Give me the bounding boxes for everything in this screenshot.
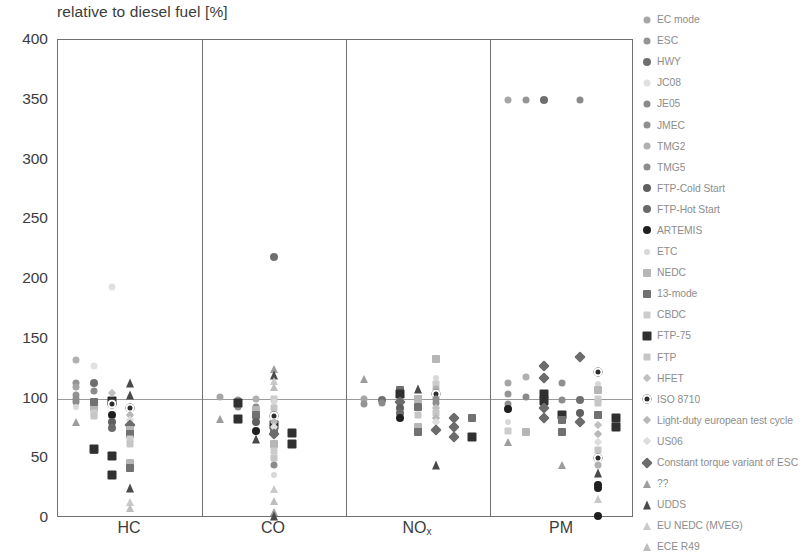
x-tick-label-co: CO — [203, 519, 343, 537]
legend-item-ftp-75[interactable]: FTP-75 — [640, 325, 807, 346]
legend-label: ESC — [657, 35, 678, 46]
legend-item-13-mode[interactable]: 13-mode — [640, 283, 807, 304]
legend-marker-icon — [640, 202, 654, 216]
legend-marker-icon — [640, 245, 654, 259]
data-point — [594, 368, 603, 377]
data-point — [253, 395, 260, 402]
data-point — [468, 414, 476, 422]
data-point — [505, 96, 512, 103]
data-point — [73, 357, 80, 364]
legend-marker-icon — [640, 139, 654, 153]
data-point — [270, 497, 278, 505]
legend-label: HFET — [657, 373, 684, 384]
legend-item-ec-mode[interactable]: EC mode — [640, 9, 807, 30]
data-point — [504, 405, 512, 413]
legend-item-nedc[interactable]: NEDC — [640, 262, 807, 283]
legend-marker-icon — [640, 181, 654, 195]
data-point — [558, 416, 566, 424]
data-point — [595, 446, 602, 453]
legend-item-jc08[interactable]: JC08 — [640, 72, 807, 93]
legend-item-artemis[interactable]: ARTEMIS — [640, 220, 807, 241]
data-point — [559, 396, 566, 403]
data-point — [108, 400, 117, 409]
legend-item-cbdc[interactable]: CBDC — [640, 304, 807, 325]
legend-item-constant-torque-variant-of-esc[interactable]: Constant torque variant of ESC — [640, 452, 807, 473]
legend-marker-icon — [640, 55, 654, 69]
legend-label: FTP-Cold Start — [657, 183, 725, 194]
legend-label: UDDS — [657, 499, 686, 510]
data-point — [432, 355, 440, 363]
legend-item-udds[interactable]: UDDS — [640, 494, 807, 515]
legend-marker-icon — [640, 392, 654, 406]
legend-label: CBDC — [657, 309, 686, 320]
y-tick-label: 200 — [0, 270, 48, 286]
data-point — [505, 379, 512, 386]
legend-label: FTP-75 — [657, 330, 691, 341]
data-point — [414, 403, 422, 411]
y-axis: 400350300250200150100500 — [0, 0, 52, 543]
data-point — [271, 455, 278, 462]
data-point — [90, 398, 98, 406]
legend-marker-icon — [640, 160, 654, 174]
y-tick-label: 300 — [0, 151, 48, 167]
legend-marker-icon — [640, 266, 654, 280]
legend-item-etc[interactable]: ETC — [640, 241, 807, 262]
data-point — [558, 428, 566, 436]
legend-label: Light-duty european test cycle — [657, 415, 793, 426]
legend-marker-icon — [640, 413, 654, 427]
data-point — [270, 253, 278, 261]
data-point — [522, 428, 530, 436]
data-point — [576, 396, 584, 404]
legend-item-ftp[interactable]: FTP — [640, 347, 807, 368]
data-point — [379, 400, 386, 407]
legend-item-[interactable]: ?? — [640, 473, 807, 494]
legend-label: JE05 — [657, 98, 680, 109]
legend-item-jmec[interactable]: JMEC — [640, 114, 807, 135]
legend: EC modeESCHWYJC08JE05JMECTMG2TMG5FTP-Col… — [640, 9, 807, 555]
data-point — [415, 412, 422, 419]
data-point — [414, 428, 422, 436]
legend-label: FTP-Hot Start — [657, 204, 720, 215]
legend-item-tmg2[interactable]: TMG2 — [640, 136, 807, 157]
y-tick-label: 150 — [0, 330, 48, 346]
legend-item-iso-8710[interactable]: ISO 8710 — [640, 389, 807, 410]
legend-item-us06[interactable]: US06 — [640, 431, 807, 452]
data-point — [234, 414, 243, 423]
legend-marker-icon — [640, 477, 654, 491]
legend-item-ftp-cold-start[interactable]: FTP-Cold Start — [640, 178, 807, 199]
chart-title: relative to diesel fuel [%] — [57, 3, 228, 21]
legend-item-je05[interactable]: JE05 — [640, 93, 807, 114]
legend-marker-icon — [640, 329, 654, 343]
legend-item-ftp-hot-start[interactable]: FTP-Hot Start — [640, 199, 807, 220]
data-point — [216, 415, 224, 423]
data-point — [523, 373, 530, 380]
data-point — [90, 444, 99, 453]
data-point — [540, 96, 548, 104]
data-point — [271, 472, 277, 478]
data-point — [126, 390, 134, 399]
data-point — [432, 461, 440, 470]
legend-label: ARTEMIS — [657, 225, 702, 236]
legend-label: FTP — [657, 352, 676, 363]
legend-label: ?? — [657, 478, 668, 489]
data-point — [574, 417, 585, 428]
legend-item-tmg5[interactable]: TMG5 — [640, 157, 807, 178]
data-point — [594, 437, 602, 445]
legend-item-hfet[interactable]: HFET — [640, 368, 807, 389]
plot-area — [57, 39, 633, 517]
x-tick-label-hc: HC — [59, 519, 199, 537]
data-point — [414, 395, 422, 403]
legend-label: TMG2 — [657, 141, 685, 152]
data-point — [252, 435, 260, 444]
data-point — [430, 424, 441, 435]
legend-label: Constant torque variant of ESC — [657, 457, 798, 468]
data-point — [73, 383, 80, 390]
legend-item-hwy[interactable]: HWY — [640, 51, 807, 72]
legend-item-esc[interactable]: ESC — [640, 30, 807, 51]
data-point — [468, 432, 477, 441]
legend-item-eu-nedc-mveg[interactable]: EU NEDC (MVEG) — [640, 515, 807, 536]
panel-divider — [346, 40, 347, 516]
legend-item-light-duty-european-test-cycle[interactable]: Light-duty european test cycle — [640, 410, 807, 431]
legend-item-ece-r49[interactable]: ECE R49 — [640, 536, 807, 555]
data-point — [504, 438, 512, 446]
